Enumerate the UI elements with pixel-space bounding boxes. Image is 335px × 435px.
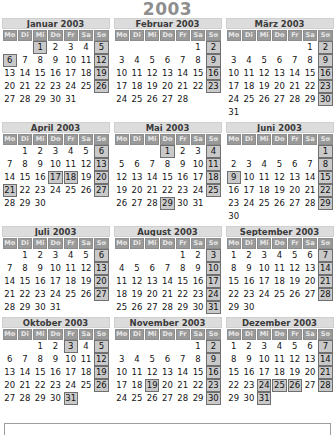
day-cell[interactable]: 9 xyxy=(242,353,256,366)
day-cell[interactable]: 23 xyxy=(33,288,47,301)
day-cell[interactable]: 29 xyxy=(18,301,32,314)
day-cell[interactable]: 30 xyxy=(242,392,256,405)
day-cell[interactable]: 7 xyxy=(288,54,302,67)
day-cell[interactable]: 4 xyxy=(272,249,286,262)
day-cell-highlighted[interactable]: 31 xyxy=(257,392,271,405)
day-cell[interactable]: 8 xyxy=(18,158,32,171)
day-cell-highlighted[interactable]: 28 xyxy=(318,288,332,301)
day-cell[interactable]: 29 xyxy=(33,392,47,405)
day-cell[interactable]: 25 xyxy=(130,93,144,106)
day-cell[interactable]: 18 xyxy=(242,80,256,93)
day-cell[interactable]: 20 xyxy=(160,80,174,93)
day-cell[interactable]: 25 xyxy=(79,379,93,392)
day-cell[interactable]: 4 xyxy=(79,41,93,54)
day-cell[interactable]: 12 xyxy=(145,366,159,379)
day-cell[interactable]: 1 xyxy=(18,145,32,158)
day-cell-highlighted[interactable]: 26 xyxy=(94,80,108,93)
day-cell[interactable]: 23 xyxy=(48,379,62,392)
day-cell-highlighted[interactable]: 29 xyxy=(160,197,174,210)
day-cell-highlighted[interactable]: 16 xyxy=(206,67,220,80)
day-cell-highlighted[interactable]: 19 xyxy=(94,67,108,80)
day-cell[interactable]: 18 xyxy=(115,288,129,301)
day-cell[interactable]: 6 xyxy=(3,353,17,366)
day-cell-highlighted[interactable]: 26 xyxy=(94,379,108,392)
day-cell[interactable]: 5 xyxy=(145,54,159,67)
day-cell-highlighted[interactable]: 24 xyxy=(257,379,271,392)
day-cell[interactable]: 18 xyxy=(130,379,144,392)
day-cell[interactable]: 28 xyxy=(303,197,317,210)
day-cell[interactable]: 26 xyxy=(115,197,129,210)
day-cell[interactable]: 4 xyxy=(79,340,93,353)
day-cell[interactable]: 10 xyxy=(257,353,271,366)
day-cell-highlighted[interactable]: 21 xyxy=(318,275,332,288)
day-cell[interactable]: 19 xyxy=(257,80,271,93)
day-cell[interactable]: 26 xyxy=(145,392,159,405)
day-cell[interactable]: 13 xyxy=(160,366,174,379)
day-cell[interactable]: 10 xyxy=(191,158,205,171)
day-cell[interactable]: 20 xyxy=(160,379,174,392)
day-cell[interactable]: 5 xyxy=(272,158,286,171)
day-cell[interactable]: 29 xyxy=(191,392,205,405)
day-cell[interactable]: 19 xyxy=(145,80,159,93)
day-cell[interactable]: 24 xyxy=(115,392,129,405)
day-cell[interactable]: 2 xyxy=(48,340,62,353)
day-cell[interactable]: 8 xyxy=(191,353,205,366)
day-cell[interactable]: 29 xyxy=(33,93,47,106)
day-cell[interactable]: 23 xyxy=(176,184,190,197)
day-cell[interactable]: 4 xyxy=(115,262,129,275)
day-cell-highlighted[interactable]: 6 xyxy=(94,145,108,158)
day-cell[interactable]: 3 xyxy=(48,145,62,158)
day-cell[interactable]: 17 xyxy=(48,275,62,288)
day-cell-highlighted[interactable]: 31 xyxy=(206,301,220,314)
day-cell[interactable]: 11 xyxy=(242,67,256,80)
day-cell[interactable]: 27 xyxy=(145,301,159,314)
day-cell[interactable]: 11 xyxy=(130,67,144,80)
day-cell-highlighted[interactable]: 19 xyxy=(94,366,108,379)
day-cell[interactable]: 16 xyxy=(242,275,256,288)
day-cell[interactable]: 9 xyxy=(191,262,205,275)
day-cell[interactable]: 11 xyxy=(79,54,93,67)
day-cell[interactable]: 24 xyxy=(191,184,205,197)
day-cell-highlighted[interactable]: 21 xyxy=(318,366,332,379)
day-cell[interactable]: 10 xyxy=(64,353,78,366)
day-cell-highlighted[interactable]: 23 xyxy=(318,80,332,93)
day-cell[interactable]: 30 xyxy=(191,301,205,314)
day-cell-highlighted[interactable]: 5 xyxy=(94,41,108,54)
day-cell-highlighted[interactable]: 13 xyxy=(94,262,108,275)
day-cell[interactable]: 22 xyxy=(176,288,190,301)
day-cell[interactable]: 5 xyxy=(130,262,144,275)
day-cell-highlighted[interactable]: 9 xyxy=(206,353,220,366)
day-cell[interactable]: 11 xyxy=(64,158,78,171)
day-cell[interactable]: 16 xyxy=(48,366,62,379)
day-cell[interactable]: 11 xyxy=(115,275,129,288)
day-cell-highlighted[interactable]: 2 xyxy=(318,41,332,54)
day-cell-highlighted[interactable]: 6 xyxy=(3,54,17,67)
day-cell[interactable]: 15 xyxy=(160,171,174,184)
day-cell-highlighted[interactable]: 29 xyxy=(318,197,332,210)
day-cell[interactable]: 6 xyxy=(303,340,317,353)
day-cell-highlighted[interactable]: 20 xyxy=(94,275,108,288)
day-cell[interactable]: 25 xyxy=(130,392,144,405)
day-cell[interactable]: 28 xyxy=(288,93,302,106)
day-cell[interactable]: 19 xyxy=(79,275,93,288)
day-cell[interactable]: 21 xyxy=(176,80,190,93)
day-cell-highlighted[interactable]: 30 xyxy=(318,93,332,106)
day-cell[interactable]: 7 xyxy=(176,353,190,366)
day-cell[interactable]: 30 xyxy=(176,197,190,210)
day-cell[interactable]: 27 xyxy=(160,392,174,405)
day-cell[interactable]: 22 xyxy=(191,80,205,93)
day-cell-highlighted[interactable]: 12 xyxy=(94,353,108,366)
day-cell[interactable]: 18 xyxy=(272,275,286,288)
day-cell[interactable]: 26 xyxy=(288,288,302,301)
day-cell[interactable]: 28 xyxy=(3,301,17,314)
day-cell[interactable]: 20 xyxy=(303,366,317,379)
day-cell[interactable]: 19 xyxy=(288,275,302,288)
day-cell[interactable]: 13 xyxy=(3,67,17,80)
day-cell-highlighted[interactable]: 9 xyxy=(206,54,220,67)
day-cell[interactable]: 2 xyxy=(48,41,62,54)
day-cell[interactable]: 1 xyxy=(18,249,32,262)
day-cell[interactable]: 27 xyxy=(272,93,286,106)
day-cell[interactable]: 2 xyxy=(33,249,47,262)
day-cell[interactable]: 17 xyxy=(257,366,271,379)
day-cell[interactable]: 20 xyxy=(3,379,17,392)
